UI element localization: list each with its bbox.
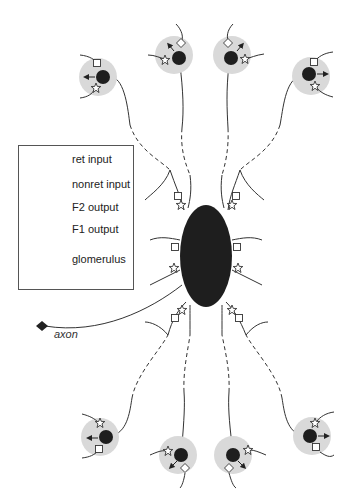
glomeruli-top — [79, 24, 333, 98]
cell-body — [180, 205, 232, 307]
axon-path — [45, 285, 182, 328]
legend-label-f1-output: F1 output — [72, 223, 118, 235]
axon-terminal-icon — [36, 321, 48, 331]
legend-label-f2-output: F2 output — [72, 201, 118, 213]
axon-label: axon — [54, 328, 78, 340]
legend — [18, 145, 134, 290]
dendrites-top — [112, 65, 300, 175]
dendrites-bottom — [114, 335, 300, 445]
legend-label-nonret-input: nonret input — [72, 178, 130, 190]
legend-label-glomerulus: glomerulus — [72, 253, 126, 265]
glomeruli-bottom — [81, 412, 334, 488]
legend-label-ret-input: ret input — [72, 153, 112, 165]
